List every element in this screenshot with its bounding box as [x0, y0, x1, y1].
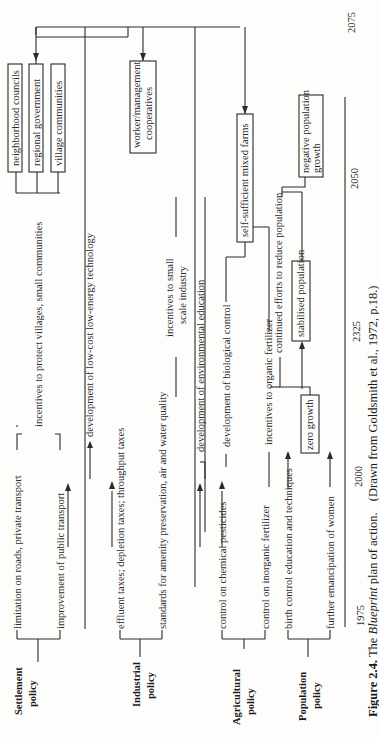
- industrial-branch: effluent taxes; depletion taxes; through…: [65, 197, 188, 657]
- settlement-action-roads: limitation on roads, private transport: [12, 475, 23, 629]
- population-action-women: further emancipation of women: [325, 496, 336, 629]
- settlement-branch: limitation on roads, private transport i…: [12, 222, 66, 662]
- population-action-continued-efforts: continued efforts to reduce population: [273, 192, 284, 353]
- settlement-outcomes: neighborhood councils regional governmen…: [8, 64, 65, 193]
- population-action-birth-control: birth control education and techniques: [283, 468, 294, 629]
- figure-caption: Figure 2.4. The Blueprint plan of action…: [366, 286, 379, 717]
- village-communities-label: village communities: [53, 81, 64, 166]
- agricultural-action-env-education: development of environmental education: [195, 279, 206, 452]
- settlement-action-villages: incentives to protect villages, small co…: [33, 222, 44, 427]
- timeline-1975: 1975: [355, 605, 366, 626]
- zero-growth-label: zero growth: [304, 399, 315, 450]
- timeline-2000: 2000: [353, 466, 364, 487]
- neighborhood-councils-label: neighborhood councils: [10, 70, 21, 166]
- timeline-2075: 2075: [346, 12, 357, 33]
- settlement-action-public-transport: improvement of public transport: [55, 493, 66, 629]
- agricultural-action-inorganic: control on inorganic fertilizer: [260, 505, 271, 629]
- population-branch: birth control education and techniques f…: [270, 89, 336, 657]
- regional-government-label: regional government: [31, 79, 42, 166]
- timeline-2325: 2325: [351, 321, 362, 342]
- agricultural-branch: control on chemical pesticides control o…: [195, 197, 274, 649]
- industrial-action-small-scale-1: incentives to small: [164, 258, 175, 337]
- stabilised-population-label: stabilised population: [295, 249, 306, 337]
- self-sufficient-farms-label: self-sufficient mixed farms: [239, 123, 250, 237]
- agricultural-policy-label: Agriculturalpolicy: [231, 669, 256, 725]
- timeline-2050: 2050: [349, 168, 360, 189]
- industrial-action-taxes: effluent taxes; depletion taxes; through…: [115, 428, 126, 629]
- settlement-policy-label: Settlementpolicy: [13, 667, 38, 715]
- industrial-action-small-scale-2: scale industry: [177, 265, 188, 324]
- blueprint-diagram: Settlementpolicy Industrialpolicy Agricu…: [0, 0, 379, 737]
- industrial-policy-label: Industrialpolicy: [131, 662, 156, 707]
- population-policy-label: Populationpolicy: [297, 672, 322, 721]
- industrial-action-low-energy-tech: development of low-cost low-energy techn…: [84, 232, 95, 437]
- agricultural-action-biological: development of biological control: [221, 304, 232, 447]
- industrial-action-standards: standards for amenity preservation, air …: [157, 391, 168, 629]
